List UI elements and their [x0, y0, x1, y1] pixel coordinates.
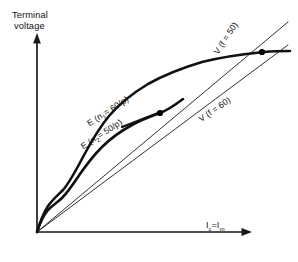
e-curve-n1-60p — [37, 51, 290, 232]
x-axis-label-sub-m: m — [219, 225, 224, 232]
x-axis-label: Ic=Im — [206, 220, 225, 232]
label-e-n1-rest: = 60/p) — [102, 94, 131, 117]
y-axis-label-line2: voltage — [14, 21, 45, 31]
x-axis-arrowhead — [242, 228, 253, 236]
figure-container: Terminal voltage Ic=Im E (n1= 60/p) E (n… — [0, 0, 298, 262]
y-axis-label-line1: Terminal — [12, 10, 48, 20]
x-axis-label-eq: =I — [212, 220, 220, 230]
label-v-f50-group: V (f = 50) — [211, 20, 239, 56]
leader-line-e-n2 — [122, 113, 158, 127]
y-axis-arrowhead — [33, 33, 41, 44]
v-line-f60 — [37, 45, 288, 232]
operating-point-50hz-dot — [157, 110, 163, 116]
graph-svg: Terminal voltage Ic=Im E (n1= 60/p) E (n… — [0, 0, 298, 262]
operating-point-60hz-dot — [259, 49, 265, 55]
e-curve-n2-50p — [37, 99, 183, 232]
svg-text:Ic=Im: Ic=Im — [206, 220, 225, 232]
label-v-f50: V (f = 50) — [211, 20, 239, 56]
